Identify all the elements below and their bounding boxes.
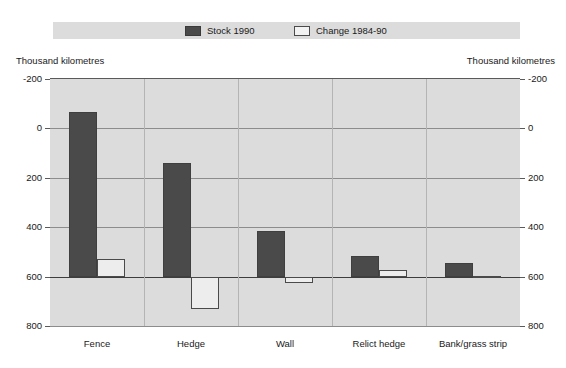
y-tick-label-right-0: 0 [528, 123, 566, 133]
gridline [50, 128, 520, 129]
y-tick-mark-right [520, 79, 525, 80]
bar-stock-fence [69, 112, 97, 276]
category-separator [426, 79, 427, 326]
x-category-label-wall: Wall [276, 338, 294, 349]
bar-change-hedge [191, 277, 219, 309]
gridline [50, 326, 520, 327]
y-tick-label-left-600: 600 [0, 272, 42, 282]
legend-label-change: Change 1984-90 [316, 25, 387, 36]
chart-figure: Stock 1990 Change 1984-90 Thousand kilom… [0, 0, 566, 368]
y-tick-label-left--200: -200 [0, 74, 42, 84]
legend-swatch-change-icon [294, 26, 310, 36]
x-category-label-relict-hedge: Relict hedge [353, 338, 406, 349]
bar-change-fence [97, 259, 125, 276]
left-axis-caption: Thousand kilometres [16, 55, 104, 66]
legend-band [53, 22, 520, 39]
x-category-label-hedge: Hedge [177, 338, 205, 349]
legend-item-stock-1990: Stock 1990 [185, 23, 255, 38]
category-separator [238, 79, 239, 326]
y-tick-label-right-400: 400 [528, 222, 566, 232]
y-tick-label-left-0: 0 [0, 123, 42, 133]
gridline [50, 178, 520, 179]
y-tick-mark-right [520, 227, 525, 228]
bar-stock-hedge [163, 163, 191, 276]
x-category-label-fence: Fence [84, 338, 110, 349]
y-tick-label-left-400: 400 [0, 222, 42, 232]
legend-label-stock: Stock 1990 [207, 25, 255, 36]
y-tick-mark-left [45, 79, 50, 80]
y-tick-label-right-800: 800 [528, 321, 566, 331]
gridline [50, 227, 520, 228]
right-axis-caption: Thousand kilometres [467, 55, 555, 66]
legend-swatch-stock-icon [185, 26, 201, 36]
bar-stock-wall [257, 231, 285, 277]
bar-stock-relict-hedge [351, 256, 379, 277]
y-tick-mark-right [520, 178, 525, 179]
x-category-label-bank-grass-strip: Bank/grass strip [439, 338, 507, 349]
category-separator [144, 79, 145, 326]
y-tick-label-right-600: 600 [528, 272, 566, 282]
category-separator [332, 79, 333, 326]
y-tick-mark-right [520, 128, 525, 129]
bar-change-bank-grass-strip [473, 276, 501, 278]
y-tick-mark-left [45, 326, 50, 327]
y-tick-label-left-200: 200 [0, 173, 42, 183]
y-tick-label-left-800: 800 [0, 321, 42, 331]
bar-change-wall [285, 277, 313, 283]
plot-area: 80080060060040040020020000-200-200 [50, 78, 520, 326]
y-tick-label-right--200: -200 [528, 74, 566, 84]
bar-change-relict-hedge [379, 270, 407, 276]
y-tick-mark-left [45, 178, 50, 179]
bar-stock-bank-grass-strip [445, 263, 473, 277]
y-tick-mark-left [45, 227, 50, 228]
legend-item-change-1984-90: Change 1984-90 [294, 23, 387, 38]
y-tick-mark-right [520, 326, 525, 327]
y-tick-mark-right [520, 277, 525, 278]
y-tick-mark-left [45, 277, 50, 278]
y-tick-mark-left [45, 128, 50, 129]
y-tick-label-right-200: 200 [528, 173, 566, 183]
